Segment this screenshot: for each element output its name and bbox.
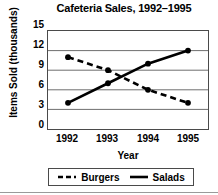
- data-point-salads-1994: [145, 61, 151, 67]
- plot-svg: [48, 31, 208, 129]
- legend-entry-salads: Salads: [129, 172, 185, 183]
- legend-entry-burgers: Burgers: [57, 172, 119, 183]
- y-axis-label: Items Sold (thousands): [8, 3, 19, 123]
- data-point-salads-1992: [65, 100, 71, 106]
- y-tick-15: 15: [22, 19, 44, 30]
- series-line-burgers: [68, 57, 188, 103]
- y-tick-6: 6: [22, 79, 44, 90]
- dashed-line-icon: [57, 173, 77, 181]
- data-point-burgers-1993: [105, 67, 111, 73]
- data-point-salads-1995: [185, 48, 191, 54]
- y-axis-tick-labels: 15 12 9 6 3 0: [22, 24, 44, 136]
- y-tick-3: 3: [22, 99, 44, 110]
- chart-title: Cafeteria Sales, 1992–1995: [32, 2, 216, 14]
- data-point-burgers-1995: [185, 100, 191, 106]
- chart-figure: Cafeteria Sales, 1992–1995 Items Sold (t…: [0, 0, 218, 195]
- x-tick-1993: 1993: [87, 133, 127, 144]
- x-axis-tick-labels: 1992 1993 1994 1995: [47, 133, 209, 147]
- series-line-salads: [68, 51, 188, 103]
- solid-line-icon: [129, 173, 149, 181]
- chart-legend: Burgers Salads: [48, 168, 194, 186]
- x-tick-1994: 1994: [128, 133, 168, 144]
- data-point-burgers-1992: [65, 54, 71, 60]
- legend-label-salads: Salads: [153, 172, 185, 183]
- y-tick-9: 9: [22, 59, 44, 70]
- data-point-salads-1993: [105, 80, 111, 86]
- data-point-burgers-1994: [145, 87, 151, 93]
- x-tick-1995: 1995: [168, 133, 208, 144]
- y-tick-12: 12: [22, 39, 44, 50]
- x-tick-1992: 1992: [47, 133, 87, 144]
- plot-area: [47, 30, 209, 130]
- x-axis-label: Year: [47, 150, 209, 161]
- page-bottom-rule: [0, 192, 218, 193]
- legend-label-burgers: Burgers: [81, 172, 119, 183]
- data-series-layer: [65, 48, 191, 106]
- y-tick-0: 0: [22, 119, 44, 130]
